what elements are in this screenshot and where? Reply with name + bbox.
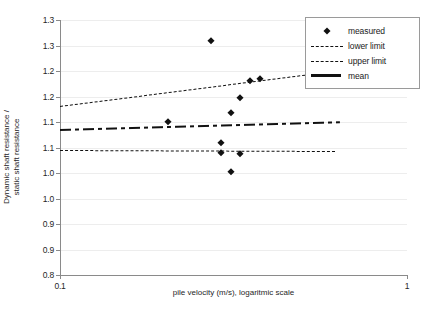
x-tick-mark bbox=[407, 275, 408, 279]
data-point-marker bbox=[236, 94, 244, 102]
legend-item[interactable]: mean bbox=[310, 68, 413, 83]
y-tick-label: 1.1 bbox=[43, 117, 54, 127]
y-tick-label: 1.1 bbox=[43, 143, 54, 153]
legend-item-label: lower limit bbox=[348, 41, 385, 51]
y-tick-label: 1.3 bbox=[43, 15, 54, 25]
gridline bbox=[61, 173, 407, 174]
y-axis-title-line-1: Dynamic shaft resistance / bbox=[2, 72, 12, 242]
legend-item[interactable]: lower limit bbox=[310, 38, 413, 53]
x-axis-title: pile velocity (m/s), logaritmic scale bbox=[60, 288, 407, 297]
data-point-marker bbox=[227, 109, 235, 117]
y-axis-title: Dynamic shaft resistance / static shaft … bbox=[2, 72, 22, 242]
y-tick-label: 1.0 bbox=[43, 168, 54, 178]
gridline bbox=[61, 97, 407, 98]
data-point-marker bbox=[246, 77, 254, 85]
legend-item[interactable]: upper limit bbox=[310, 53, 413, 68]
y-tick-label: 1.2 bbox=[43, 66, 54, 76]
y-tick-mark bbox=[56, 122, 60, 123]
gridline bbox=[61, 122, 407, 123]
y-tick-mark bbox=[56, 199, 60, 200]
y-tick-label: 0.9 bbox=[43, 245, 54, 255]
gridline bbox=[61, 148, 407, 149]
gridline bbox=[61, 199, 407, 200]
y-tick-label: 0.8 bbox=[43, 270, 54, 280]
legend-item-label: upper limit bbox=[348, 56, 386, 66]
y-tick-mark bbox=[56, 250, 60, 251]
y-axis-title-line-2: static shaft resistance bbox=[12, 72, 22, 242]
y-tick-label: 0.9 bbox=[43, 219, 54, 229]
y-tick-mark bbox=[56, 148, 60, 149]
x-axis-line bbox=[60, 275, 407, 276]
y-tick-mark bbox=[56, 173, 60, 174]
legend-item[interactable]: measured bbox=[310, 23, 413, 38]
data-point-marker bbox=[228, 168, 236, 176]
series-line-upper-limit bbox=[60, 71, 335, 107]
gridline bbox=[61, 250, 407, 251]
legend-key-icon bbox=[310, 71, 344, 80]
data-point-marker bbox=[164, 118, 172, 126]
y-axis-line bbox=[60, 20, 61, 275]
x-tick-label: 0.1 bbox=[54, 281, 65, 291]
gridline bbox=[61, 224, 407, 225]
y-tick-mark bbox=[56, 46, 60, 47]
y-tick-label: 1.3 bbox=[43, 41, 54, 51]
x-tick-label: 1 bbox=[405, 281, 410, 291]
y-tick-mark bbox=[56, 224, 60, 225]
x-tick-mark bbox=[60, 275, 61, 279]
legend-key-icon bbox=[310, 26, 344, 35]
legend-key-icon bbox=[310, 56, 344, 65]
y-tick-label: 1.2 bbox=[43, 92, 54, 102]
y-tick-mark bbox=[56, 97, 60, 98]
legend-item-label: mean bbox=[348, 71, 369, 81]
data-point-marker bbox=[218, 140, 226, 148]
y-tick-mark bbox=[56, 20, 60, 21]
series-line-lower-limit bbox=[60, 150, 335, 152]
chart-legend: measuredlower limitupper limitmean bbox=[305, 17, 420, 89]
y-tick-mark bbox=[56, 71, 60, 72]
legend-key-icon bbox=[310, 41, 344, 50]
data-point-marker bbox=[207, 37, 215, 45]
chart-root: Dynamic shaft resistance / static shaft … bbox=[0, 0, 428, 313]
y-tick-label: 1.0 bbox=[43, 194, 54, 204]
data-point-marker bbox=[257, 75, 265, 83]
legend-item-label: measured bbox=[348, 26, 385, 36]
